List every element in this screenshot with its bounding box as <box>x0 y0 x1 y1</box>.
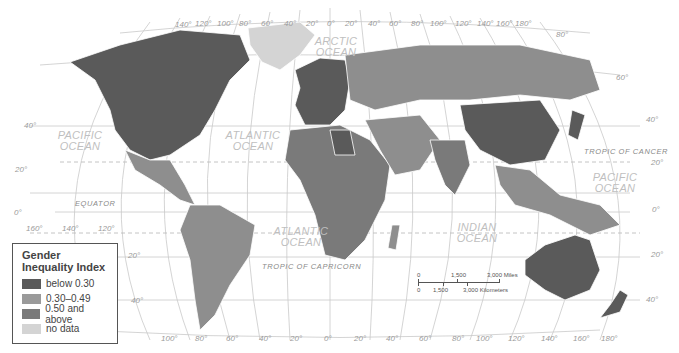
lon-top: 80° <box>411 19 423 28</box>
lon-left: 160° <box>26 224 43 233</box>
lon-top: 80° <box>239 19 251 28</box>
legend-title: Gender Inequality Index <box>22 249 111 273</box>
scale-miles-0: 0 <box>417 272 420 278</box>
ocean-label-atlantic-south: ATLANTIC OCEAN <box>266 226 336 248</box>
legend-swatch <box>22 309 40 319</box>
china <box>460 100 560 165</box>
legend-label: 0.50 and above <box>45 303 111 325</box>
legend-label: no data <box>46 323 79 334</box>
scale-tick <box>418 279 419 286</box>
legend-swatch <box>22 294 41 304</box>
lon-bottom: 60° <box>419 334 431 343</box>
lat-right: 0° <box>652 205 660 214</box>
lon-bottom: 80° <box>452 334 464 343</box>
lon-top: 160° <box>496 19 513 28</box>
lon-top: 0° <box>327 19 335 28</box>
lon-top: 40° <box>284 19 296 28</box>
lon-bottom: 40° <box>386 334 398 343</box>
lon-bottom: 60° <box>226 334 238 343</box>
legend-item-050-above: 0.50 and above <box>22 306 111 321</box>
equator-label: EQUATOR <box>75 199 116 208</box>
lon-top: 60° <box>261 19 273 28</box>
lat-left: 20° <box>128 251 140 260</box>
lon-bottom: 20° <box>354 334 366 343</box>
lon-left: 120° <box>98 224 115 233</box>
legend: Gender Inequality Index below 0.30 0.30–… <box>12 243 118 344</box>
lon-top: 60° <box>389 19 401 28</box>
ocean-label-pacific-west: PACIFIC OCEAN <box>50 130 110 152</box>
russia <box>345 45 600 110</box>
lat-right: 40° <box>646 115 658 124</box>
lon-bottom: 20° <box>290 334 302 343</box>
lon-bottom: 140° <box>541 334 558 343</box>
lat-left: 0° <box>14 208 22 217</box>
ocean-label-arctic: ARCTIC OCEAN <box>306 36 366 58</box>
lon-top: 40° <box>368 19 380 28</box>
lat-right: 20° <box>651 158 663 167</box>
lon-bottom: 80° <box>195 334 207 343</box>
scale-line <box>418 282 500 283</box>
lon-top: 120° <box>195 19 212 28</box>
lon-top: 100° <box>217 19 234 28</box>
madagascar <box>388 225 400 250</box>
lon-bottom: 100° <box>476 334 493 343</box>
greenland <box>248 22 315 70</box>
legend-swatch <box>22 279 41 289</box>
new-zealand <box>600 290 628 318</box>
lon-top: 120° <box>455 19 472 28</box>
lon-bottom: 160° <box>573 334 590 343</box>
scale-km-3000: 3,000 Kilometers <box>463 287 508 293</box>
lon-bottom: 40° <box>259 334 271 343</box>
scale-miles-1500: 1,500 <box>451 272 466 278</box>
mexico-central-america <box>125 150 195 205</box>
scale-bar: 0 1,500 3,000 Miles 0 1,500 3,000 Kilome… <box>415 272 525 302</box>
lon-bottom: 0° <box>324 334 332 343</box>
europe <box>295 58 350 125</box>
legend-item-below-030: below 0.30 <box>22 276 111 291</box>
south-america <box>180 205 255 330</box>
lat-right: 60° <box>616 73 628 82</box>
scale-km-1500: 1,500 <box>433 287 448 293</box>
lat-left: 40° <box>131 296 143 305</box>
lat-right: 80° <box>556 30 568 39</box>
india <box>430 140 470 195</box>
scale-tick <box>467 282 468 286</box>
scale-miles-3000: 3,000 Miles <box>487 272 518 278</box>
ocean-label-pacific-east: PACIFIC OCEAN <box>585 172 645 194</box>
lon-top: 20° <box>306 19 318 28</box>
ocean-label-atlantic-north: ATLANTIC OCEAN <box>218 130 288 152</box>
lat-left: 40° <box>24 121 36 130</box>
tropic-of-cancer-label: TROPIC OF CANCER <box>584 147 668 156</box>
scale-tick <box>443 282 444 286</box>
lon-top: 180° <box>515 19 532 28</box>
scale-km-0: 0 <box>417 287 420 293</box>
lon-bottom: 120° <box>508 334 525 343</box>
scale-tick <box>499 279 500 283</box>
lon-top: 20° <box>345 19 357 28</box>
lat-right: 20° <box>651 250 663 259</box>
lon-left: 140° <box>62 224 79 233</box>
landmasses <box>70 22 628 330</box>
scale-tick <box>457 279 458 283</box>
lat-right: 40° <box>646 295 658 304</box>
ocean-label-indian: INDIAN OCEAN <box>447 222 507 244</box>
legend-label: below 0.30 <box>46 278 94 289</box>
lon-bottom: 100° <box>161 334 178 343</box>
legend-swatch <box>22 324 41 334</box>
lon-top: 100° <box>430 19 447 28</box>
lat-left: 20° <box>15 165 27 174</box>
lon-bottom: 180° <box>601 334 618 343</box>
lon-top: 140° <box>477 19 494 28</box>
lon-top: 140° <box>175 20 192 29</box>
japan <box>568 110 585 140</box>
tropic-of-capricorn-label: TROPIC OF CAPRICORN <box>262 262 361 271</box>
